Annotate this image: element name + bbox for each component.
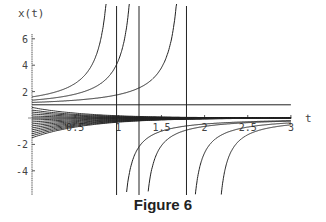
figure-caption: Figure 6 (0, 196, 326, 213)
y-tick-label: 2 (22, 87, 28, 98)
y-tick-label: -4 (16, 166, 28, 177)
solution-curve (195, 123, 291, 194)
y-tick-label: -2 (16, 139, 28, 150)
x-axis-label: t (305, 112, 312, 125)
solution-curve (221, 125, 291, 195)
y-tick-label: 6 (22, 34, 28, 45)
x-tick-label: 3 (288, 122, 294, 133)
solution-curve (32, 4, 129, 100)
chart-plot: x(t)t-4-22460.511.522.53 (0, 0, 326, 200)
y-tick-label: 4 (22, 60, 28, 71)
y-axis-label: x(t) (18, 7, 45, 20)
solution-curve (127, 121, 291, 192)
